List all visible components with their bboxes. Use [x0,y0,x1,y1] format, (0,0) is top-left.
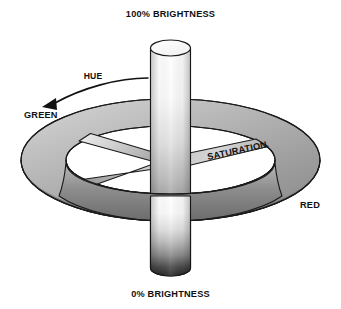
label-hue: HUE [84,71,103,81]
label-brightness-max: 100% BRIGHTNESS [126,9,215,19]
hsb-color-model-diagram: 100% BRIGHTNESS 0% BRIGHTNESS HUE GREEN … [0,0,341,309]
label-brightness-min: 0% BRIGHTNESS [131,289,210,299]
brightness-cylinder-lower [151,196,191,276]
label-green: GREEN [24,110,58,120]
label-red: RED [300,200,320,210]
cylinder-top-cap [151,40,191,56]
hsb-diagram-svg: 100% BRIGHTNESS 0% BRIGHTNESS HUE GREEN … [0,0,341,309]
